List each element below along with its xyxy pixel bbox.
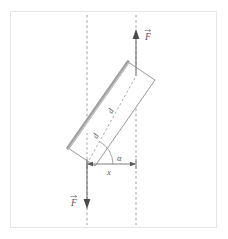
horizontal-dimension-label: x bbox=[106, 167, 111, 177]
figure-canvas: F F d d α x bbox=[0, 0, 228, 239]
physics-figure: F F d d α x bbox=[0, 0, 228, 239]
force-bottom-label-group: F bbox=[70, 195, 77, 208]
force-top-label-group: F bbox=[144, 29, 151, 42]
force-bottom-label: F bbox=[70, 198, 77, 208]
force-top-label: F bbox=[144, 32, 151, 42]
angle-label: α bbox=[117, 153, 122, 163]
